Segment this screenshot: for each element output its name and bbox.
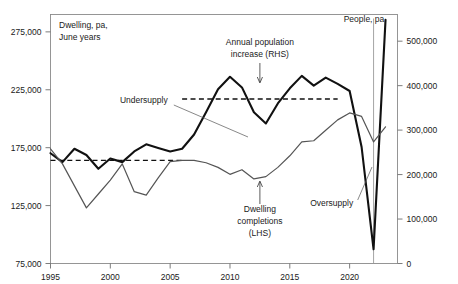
right-tick-label: 500,000 bbox=[407, 36, 438, 46]
left-tick-label: 175,000 bbox=[11, 143, 42, 153]
left-axis-unit-label-line1: Dwelling, pa, bbox=[59, 20, 108, 30]
right-tick-label: 0 bbox=[407, 259, 412, 269]
x-tick-label: 2020 bbox=[340, 272, 359, 282]
right-tick-label: 300,000 bbox=[407, 125, 438, 135]
left-tick-label: 75,000 bbox=[16, 259, 42, 269]
annotation-population-label-line1: Annual population bbox=[226, 37, 294, 47]
annotation-undersupply-label: Undersupply bbox=[120, 95, 168, 105]
annotation-oversupply-label: Oversupply bbox=[310, 198, 354, 208]
x-tick-label: 2015 bbox=[280, 272, 299, 282]
chart-canvas: 75,000125,000175,000225,000275,000 0100,… bbox=[0, 0, 458, 284]
left-tick-label: 225,000 bbox=[11, 85, 42, 95]
x-tick-label: 2010 bbox=[221, 272, 240, 282]
right-tick-label: 100,000 bbox=[407, 214, 438, 224]
chart-container: 75,000125,000175,000225,000275,000 0100,… bbox=[0, 0, 458, 284]
annotation-completions-label-line1: Dwelling bbox=[244, 204, 276, 214]
right-tick-label: 400,000 bbox=[407, 81, 438, 91]
left-tick-label: 275,000 bbox=[11, 27, 42, 37]
x-tick-label: 1995 bbox=[41, 272, 60, 282]
annotation-completions-label-line2: completions bbox=[237, 216, 282, 226]
annotation-people-pa-label: People, pa bbox=[344, 14, 385, 24]
annotation-population-label-line2: increase (RHS) bbox=[231, 49, 289, 59]
left-tick-label: 125,000 bbox=[11, 201, 42, 211]
x-tick-label: 2000 bbox=[101, 272, 120, 282]
left-axis-unit-label-line2: June years bbox=[59, 32, 101, 42]
x-tick-label: 2005 bbox=[161, 272, 180, 282]
annotation-completions-label-line3: (LHS) bbox=[249, 228, 271, 238]
right-tick-label: 200,000 bbox=[407, 170, 438, 180]
